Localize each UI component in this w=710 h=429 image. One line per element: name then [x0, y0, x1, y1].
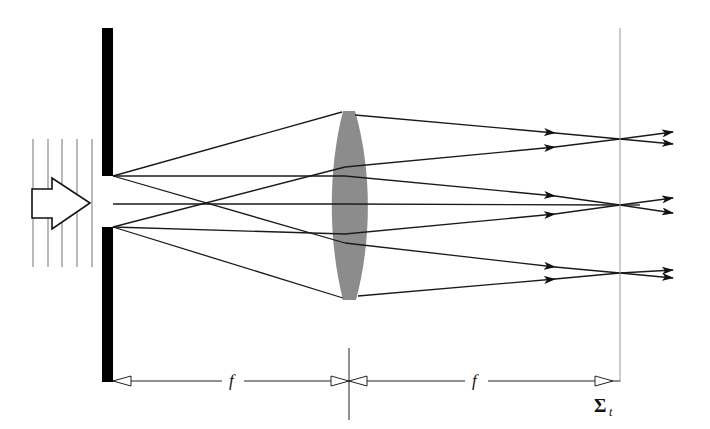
screen-upper-bar — [102, 28, 113, 176]
screen-lower-bar — [102, 227, 113, 382]
rays-slit-to-lens — [113, 112, 345, 298]
propagation-arrow-icon — [32, 178, 90, 229]
slit-screen — [102, 28, 113, 382]
converging-lens — [332, 111, 368, 300]
focal-length-label-left: f — [229, 371, 236, 390]
plane-label-sigma: Σ — [594, 395, 606, 416]
focal-length-label-right: f — [472, 371, 479, 390]
rays-lens-to-plane — [345, 115, 673, 296]
dimension-f-right — [349, 376, 620, 386]
optics-diagram: f f Σ t — [0, 0, 710, 429]
plane-label-subscript: t — [609, 405, 613, 419]
